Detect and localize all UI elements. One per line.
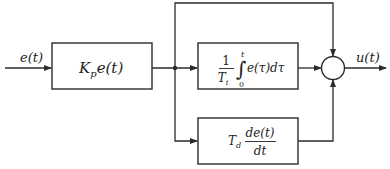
- svg-text:dt: dt: [254, 144, 267, 158]
- summing-junction: [322, 57, 345, 80]
- input-label: e(t): [20, 50, 43, 65]
- derivative-block: [198, 118, 298, 164]
- svg-text:e(τ)dτ: e(τ)dτ: [247, 61, 285, 75]
- integral-sign-icon: ∫: [236, 57, 246, 81]
- pid-block-diagram: e(t) Kpe(t) 1 Ti ∫ t 0 e(τ)dτ Td de(t) d…: [0, 0, 390, 169]
- output-label: u(t): [356, 50, 380, 65]
- svg-text:1: 1: [222, 54, 230, 68]
- svg-text:de(t): de(t): [246, 126, 275, 140]
- derivative-to-sum-wire: [298, 80, 333, 141]
- svg-text:0: 0: [239, 80, 244, 89]
- derivative-input-wire: [175, 68, 197, 141]
- proportional-expression: Kpe(t): [78, 59, 123, 79]
